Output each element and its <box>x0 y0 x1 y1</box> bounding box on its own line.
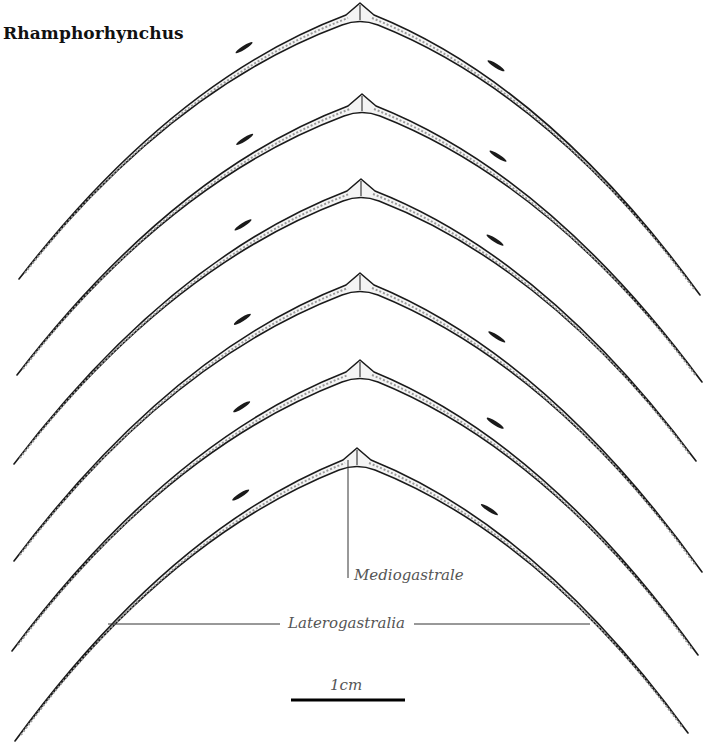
gastralia-figure: Rhamphorhynchus Mediogastrale Laterogast… <box>0 0 715 747</box>
rib-joint-mark <box>235 41 254 55</box>
figure-title: Rhamphorhynchus <box>3 23 184 43</box>
rib-shading-right <box>372 288 696 566</box>
rib-shading-left <box>23 109 350 369</box>
rib-shading-right <box>369 463 682 727</box>
rib-shading-left <box>20 194 349 458</box>
rib-shading-right <box>374 109 696 376</box>
rib-joint-mark <box>233 218 252 232</box>
gastral-rib-1 <box>19 3 700 295</box>
rib-joint-mark <box>235 132 254 146</box>
gastral-rib-2 <box>17 94 702 382</box>
gastral-rib-5 <box>12 360 698 655</box>
gastral-rib-6 <box>15 448 688 741</box>
rib-shading-left <box>25 18 348 273</box>
rib-joint-mark <box>487 330 506 344</box>
rib-joint-mark <box>485 233 504 247</box>
rib-shading-right <box>373 194 690 455</box>
gastralia-drawing <box>0 0 715 747</box>
rib-joint-mark <box>486 59 505 73</box>
label-laterogastralia: Laterogastralia <box>284 614 409 632</box>
rib-shading-left <box>21 463 345 735</box>
rib-shading-left <box>18 375 348 645</box>
rib-joint-mark <box>233 312 252 326</box>
gastral-rib-4 <box>14 273 702 572</box>
scale-bar-label: 1cm <box>330 676 362 694</box>
rib-joint-mark <box>480 503 499 517</box>
label-mediogastrale: Mediogastrale <box>354 566 464 584</box>
rib-shading-left <box>20 288 348 555</box>
rib-shading-right <box>372 375 692 649</box>
rib-joint-mark <box>232 400 251 414</box>
gastral-rib-3 <box>14 179 696 464</box>
rib-shading-right <box>372 18 694 289</box>
rib-joint-mark <box>486 416 505 430</box>
rib-joint-mark <box>231 488 250 502</box>
rib-joint-mark <box>488 149 507 163</box>
